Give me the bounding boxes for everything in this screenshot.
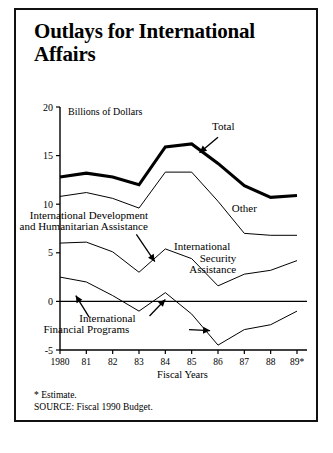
series-annotation-label: Assistance: [189, 263, 236, 275]
chart-x-tick-labels: 1980818283848586878889*: [51, 357, 305, 367]
series-annotation-label: Total: [212, 120, 234, 132]
x-axis-title: Fiscal Years: [157, 369, 208, 380]
footnote-source: SOURCE: Fiscal 1990 Budget.: [34, 401, 153, 413]
chart-annotations: TotalOtherInternational Developmentand H…: [20, 120, 258, 335]
figure-frame: Outlays for International Affairs -50510…: [14, 8, 318, 422]
y-tick-label: 0: [48, 296, 53, 307]
y-tick-label: 5: [48, 247, 53, 258]
x-tick-label: 81: [82, 357, 92, 367]
x-tick-label: 1980: [51, 357, 70, 367]
x-tick-label: 84: [161, 357, 171, 367]
x-tick-label: 82: [108, 357, 118, 367]
series-line: [60, 144, 297, 197]
series-annotation-label: International: [79, 312, 135, 324]
footnote-estimate: * Estimate.: [34, 389, 77, 401]
chart-leader-arrows: [76, 137, 218, 334]
chart-plot-area: -505101520 1980818283848586878889* Total…: [16, 10, 320, 424]
leader-arrowhead: [76, 296, 83, 304]
chart-unit-label: Billions of Dollars: [68, 106, 143, 117]
line-chart-svg: -505101520 1980818283848586878889* Total…: [16, 10, 320, 424]
x-tick-label: 86: [213, 357, 223, 367]
x-tick-label: 85: [187, 357, 197, 367]
x-tick-label: 88: [266, 357, 276, 367]
series-annotation-label: International Development: [30, 209, 148, 221]
leader-arrowhead: [148, 254, 155, 262]
leader-arrowhead: [203, 327, 210, 334]
x-tick-label: 87: [240, 357, 250, 367]
y-tick-label: 20: [43, 102, 53, 113]
y-tick-label: -5: [45, 345, 53, 356]
x-tick-label: 89*: [290, 357, 305, 367]
x-tick-label: 83: [134, 357, 144, 367]
series-annotation-label: Financial Programs: [43, 323, 129, 335]
series-annotation-label: International: [174, 240, 230, 252]
series-annotation-label: Security: [200, 252, 237, 264]
series-annotation-label: Other: [232, 202, 257, 214]
y-tick-label: 15: [43, 150, 53, 161]
series-annotation-label: and Humanitarian Assistance: [20, 220, 148, 232]
